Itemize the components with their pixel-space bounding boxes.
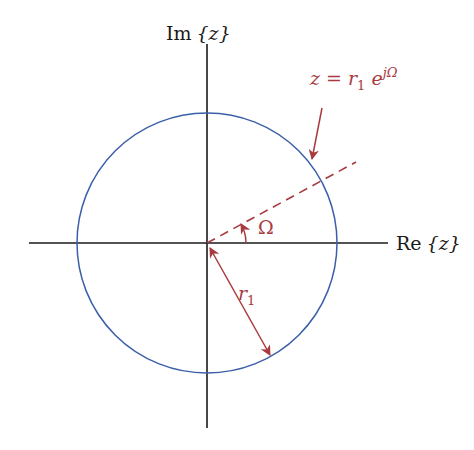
real-axis-label: Re{z} [396, 232, 461, 254]
angle-ray-dashed [207, 162, 356, 243]
point-pointer-arrow [312, 108, 322, 159]
imag-axis-label: Im{z} [166, 22, 231, 44]
angle-label: Ω [258, 216, 274, 238]
angle-arc [241, 224, 246, 243]
point-label: z = r1 ejΩ [309, 65, 398, 93]
z-plane-diagram: Im{z} Re{z} z = r1 ejΩ Ω r1 [0, 0, 474, 450]
